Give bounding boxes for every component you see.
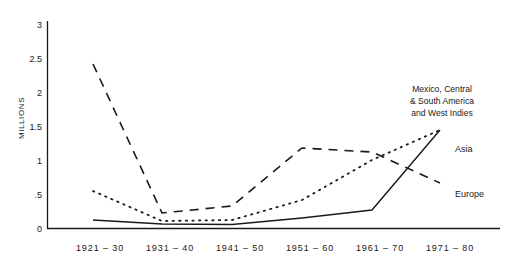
series-line-mexico-central-south-america (93, 130, 440, 221)
annotation-mexico-central-south-america: Mexico, Central & South America and West… (410, 84, 474, 118)
x-tick-label-1921-30: 1921 – 30 (76, 243, 124, 253)
y-tick-label-3: 3 (37, 20, 42, 30)
y-tick-label-2: 2 (37, 88, 42, 98)
x-tick-label-1971-80: 1971 – 80 (426, 243, 474, 253)
line-chart-canvas: MILLIONS 3 2.5 2 1.5 1 .5 0 1921 – 30 19… (0, 0, 506, 274)
y-tick-label-1-5: 1.5 (29, 122, 42, 132)
annotation-mexico-line-3: and West Indies (411, 108, 472, 118)
x-tick-label-1931-40: 1931 – 40 (146, 243, 194, 253)
x-tick-label-1951-60: 1951 – 60 (286, 243, 334, 253)
chart-figure: MILLIONS 3 2.5 2 1.5 1 .5 0 1921 – 30 19… (0, 0, 506, 274)
annotation-asia: Asia (455, 144, 473, 154)
annotation-europe: Europe (455, 189, 484, 199)
annotation-mexico-line-1: Mexico, Central (412, 84, 472, 94)
y-tick-label-2-5: 2.5 (29, 54, 42, 64)
x-tick-label-1941-50: 1941 – 50 (216, 243, 264, 253)
y-tick-label-0: 0 (37, 224, 42, 234)
y-axis-title: MILLIONS (17, 97, 26, 139)
x-tick-label-1961-70: 1961 – 70 (356, 243, 404, 253)
annotation-mexico-line-2: & South America (410, 96, 474, 106)
y-tick-label-1: 1 (37, 156, 42, 166)
series-group (93, 64, 440, 225)
y-tick-label-0-5: .5 (34, 190, 42, 200)
